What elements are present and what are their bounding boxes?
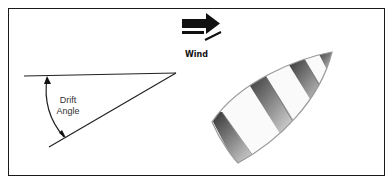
drift-label-line1: Drift <box>52 95 84 106</box>
drift-angle-label: Drift Angle <box>52 95 84 117</box>
wind-arrow-icon <box>182 13 221 40</box>
drift-label-line2: Angle <box>52 106 84 117</box>
boat-hull-icon <box>200 40 340 170</box>
drift-angle-lines <box>24 73 176 147</box>
wind-label: Wind <box>185 50 208 59</box>
drift-angle-diagram <box>0 0 392 187</box>
